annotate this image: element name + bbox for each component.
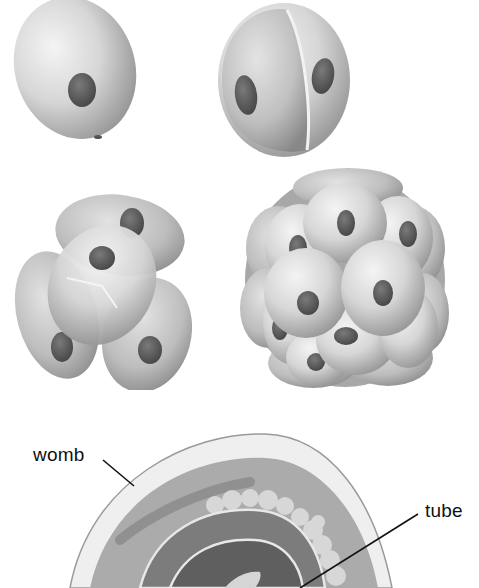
nucleus-icon xyxy=(334,327,358,345)
morula-illustration xyxy=(238,168,453,393)
nucleus-icon xyxy=(68,73,96,107)
two-cell-stage xyxy=(212,0,357,160)
morula-stage xyxy=(238,168,453,393)
nucleus-icon xyxy=(89,246,115,270)
womb-leader-line xyxy=(103,460,134,486)
four-cell-illustration xyxy=(12,190,192,390)
nucleus-icon xyxy=(373,280,393,306)
womb-label: womb xyxy=(33,444,84,466)
tube-label: tube xyxy=(425,500,463,522)
nucleus-icon xyxy=(337,210,355,236)
two-cell-illustration xyxy=(212,0,357,160)
nucleus-icon xyxy=(297,291,319,315)
four-cell-stage xyxy=(12,190,192,390)
nucleus-icon xyxy=(138,336,162,364)
one-cell-illustration xyxy=(5,0,145,145)
one-cell-stage xyxy=(5,0,145,145)
nucleus-icon xyxy=(399,221,417,247)
